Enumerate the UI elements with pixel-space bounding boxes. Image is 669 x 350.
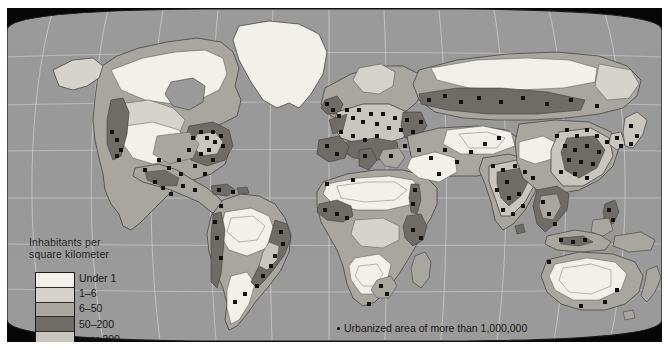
map-plate: Inhabitants per square kilometer Under 1… bbox=[7, 8, 662, 342]
urbanized-area-note-text: Urbanized area of more than 1,000,000 bbox=[344, 322, 527, 334]
legend-label-1-6: 1–6 bbox=[79, 286, 189, 301]
legend-label-50-200: 50–200 bbox=[79, 317, 189, 332]
legend-title-line-2: square kilometer bbox=[29, 248, 244, 260]
legend-label-over-200: over 200 bbox=[79, 332, 189, 342]
legend-swatch-1-6 bbox=[36, 288, 74, 303]
legend-swatch-6-50 bbox=[36, 303, 74, 318]
map-figure: Inhabitants per square kilometer Under 1… bbox=[0, 0, 669, 350]
legend-label-under-1: Under 1 bbox=[79, 271, 189, 286]
legend: Inhabitants per square kilometer bbox=[29, 236, 244, 260]
legend-swatch-under-1 bbox=[36, 273, 74, 288]
legend-swatch-column bbox=[35, 272, 75, 342]
legend-label-6-50: 6–50 bbox=[79, 301, 189, 316]
legend-swatch-50-200 bbox=[36, 317, 74, 332]
urban-dot-icon bbox=[337, 327, 340, 330]
legend-label-column: Under 1 1–6 6–50 50–200 over 200 bbox=[79, 271, 189, 342]
urbanized-area-note: Urbanized area of more than 1,000,000 bbox=[337, 322, 527, 334]
legend-swatch-over-200 bbox=[36, 332, 74, 342]
legend-title-line-1: Inhabitants per bbox=[29, 236, 244, 248]
